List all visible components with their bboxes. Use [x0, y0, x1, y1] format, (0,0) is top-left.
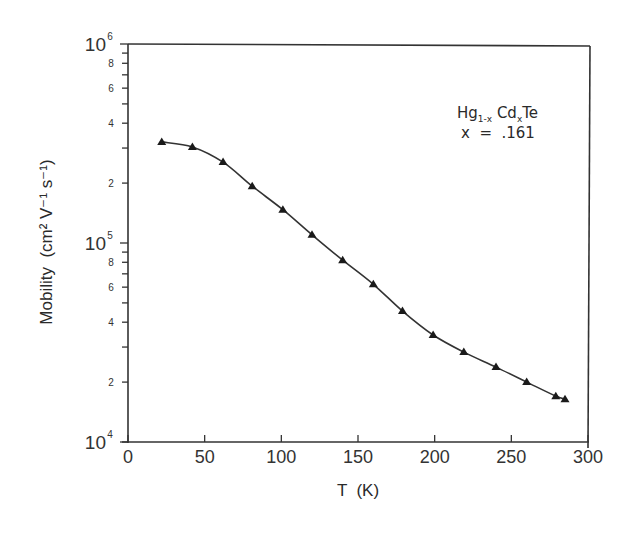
svg-text:10: 10: [85, 432, 106, 453]
svg-text:6: 6: [107, 31, 113, 42]
svg-text:50: 50: [195, 447, 215, 467]
y-axis-label: Mobility (cm² V⁻¹ s⁻¹): [37, 159, 56, 324]
data-curve: [162, 142, 565, 399]
formula-mid: Cd: [492, 104, 517, 122]
formula-base: Hg: [457, 104, 478, 122]
composition-annotation: x = .161: [461, 124, 535, 142]
svg-text:10: 10: [85, 233, 106, 254]
svg-text:8: 8: [108, 257, 114, 268]
svg-text:5: 5: [107, 230, 113, 241]
x-axis: 050100150200250300: [123, 435, 603, 467]
data-markers: [157, 137, 569, 402]
svg-text:6: 6: [108, 83, 114, 94]
svg-text:6: 6: [108, 282, 114, 293]
svg-text:10: 10: [85, 34, 106, 55]
y-axis: 24682468104105106: [85, 31, 128, 453]
svg-text:0: 0: [123, 447, 133, 467]
triangle-marker: [429, 330, 438, 338]
svg-text:4: 4: [107, 429, 113, 440]
svg-text:100: 100: [266, 447, 296, 467]
triangle-marker: [157, 137, 166, 145]
x-axis-label: T (K): [337, 481, 379, 500]
svg-text:250: 250: [496, 447, 526, 467]
svg-text:2: 2: [108, 178, 114, 189]
svg-text:300: 300: [573, 447, 603, 467]
svg-text:150: 150: [343, 447, 373, 467]
formula-end: Te: [522, 104, 538, 122]
svg-text:2: 2: [108, 377, 114, 388]
triangle-marker: [219, 158, 228, 166]
svg-text:200: 200: [420, 447, 450, 467]
svg-text:4: 4: [108, 118, 114, 129]
material-annotation: Hg1-x CdxTe: [457, 104, 538, 124]
mobility-chart: 24682468104105106 050100150200250300 T (…: [0, 0, 631, 533]
formula-sub1: 1-x: [478, 114, 492, 124]
svg-text:8: 8: [108, 58, 114, 69]
svg-text:4: 4: [108, 317, 114, 328]
